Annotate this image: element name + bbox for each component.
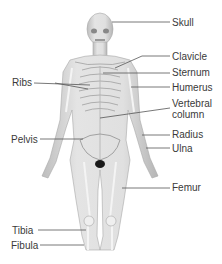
label-column: column bbox=[172, 109, 204, 120]
label-humerus: Humerus bbox=[172, 82, 213, 93]
label-femur: Femur bbox=[172, 182, 201, 193]
skeleton-diagram: Skull Clavicle Sternum Humerus Vertebral… bbox=[0, 0, 222, 264]
label-ulna: Ulna bbox=[172, 143, 193, 154]
label-sternum: Sternum bbox=[172, 67, 210, 78]
label-radius: Radius bbox=[172, 129, 203, 140]
knee-caps bbox=[84, 216, 116, 226]
label-vertebral: Vertebral bbox=[172, 98, 212, 109]
label-pelvis: Pelvis bbox=[11, 134, 38, 145]
label-ribs: Ribs bbox=[12, 77, 32, 88]
label-clavicle: Clavicle bbox=[172, 51, 207, 62]
label-tibia: Tibia bbox=[12, 225, 33, 236]
label-fibula: Fibula bbox=[11, 240, 38, 251]
label-skull: Skull bbox=[172, 17, 194, 28]
